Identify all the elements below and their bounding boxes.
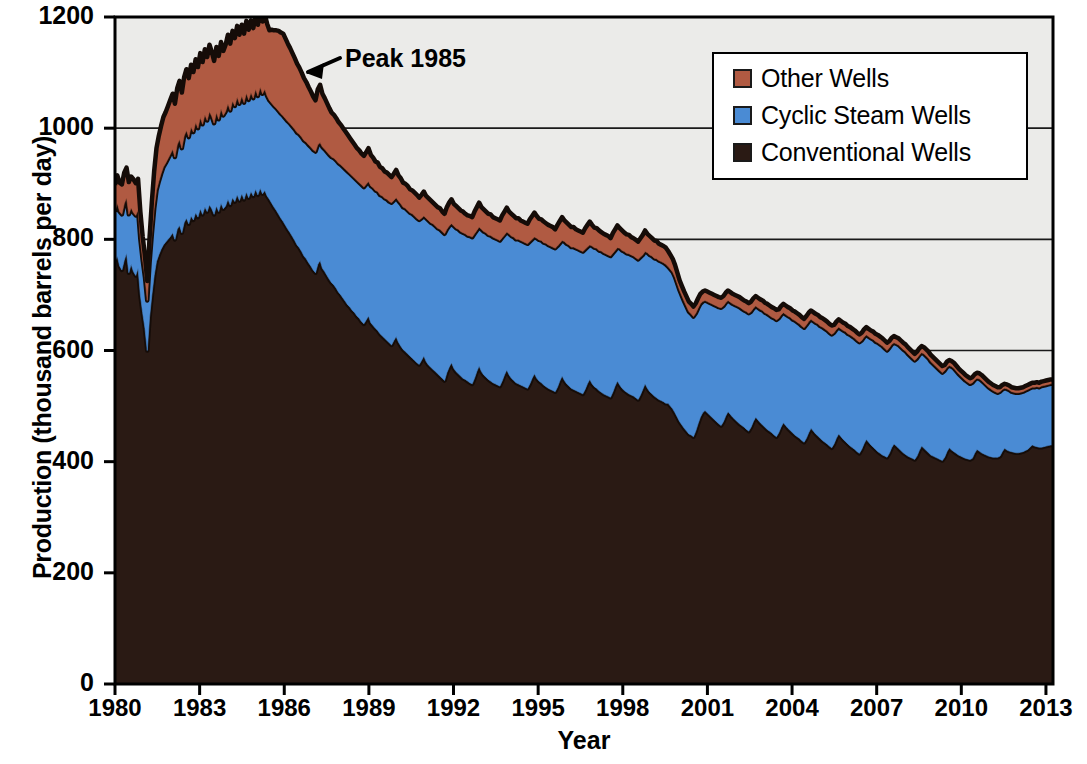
y-tick-label: 800: [9, 223, 94, 252]
y-tick-label: 0: [9, 668, 94, 697]
y-tick-label: 400: [9, 446, 94, 475]
y-tick-label: 600: [9, 335, 94, 364]
legend-label-other-wells: Other Wells: [761, 64, 889, 93]
legend-swatch-cyclic-steam-wells: [733, 106, 752, 125]
legend-item-other-wells: Other Wells: [714, 60, 1026, 97]
legend-label-cyclic-steam-wells: Cyclic Steam Wells: [761, 101, 971, 130]
legend-item-cyclic-steam-wells: Cyclic Steam Wells: [714, 97, 1026, 134]
y-tick-label: 200: [9, 557, 94, 586]
peak-annotation-label: Peak 1985: [345, 44, 466, 73]
y-tick-label: 1000: [9, 112, 94, 141]
legend-item-conventional-wells: Conventional Wells: [714, 134, 1026, 171]
legend-swatch-conventional-wells: [733, 143, 752, 162]
legend-swatch-other-wells: [733, 69, 752, 88]
x-axis-title: Year: [115, 726, 1053, 755]
y-tick-label: 1200: [9, 1, 94, 30]
legend-label-conventional-wells: Conventional Wells: [761, 138, 971, 167]
chart-figure: Production (thousand barrels per day) Ye…: [0, 0, 1087, 764]
chart-legend: Other Wells Cyclic Steam Wells Conventio…: [712, 52, 1028, 180]
x-tick-label: 2013: [991, 694, 1087, 722]
